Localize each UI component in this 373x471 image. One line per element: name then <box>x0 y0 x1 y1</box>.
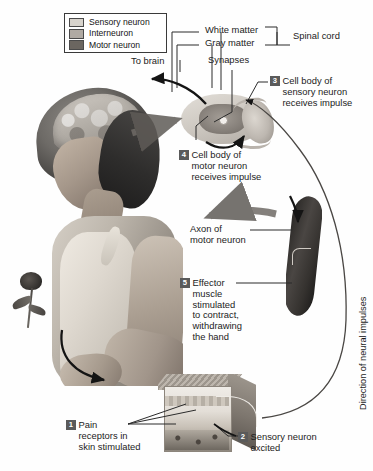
step-5-line-2: muscle <box>193 289 271 300</box>
label-spinal-cord: Spinal cord <box>293 31 340 42</box>
step-2-sensory-neuron-excited: 2Sensory neuron excited <box>238 432 348 454</box>
label-white-matter: White matter <box>205 25 258 36</box>
label-synapses: Synapses <box>208 55 249 66</box>
legend-label-motor-neuron: Motor neuron <box>89 41 140 50</box>
rose-flower <box>12 272 52 328</box>
label-direction-of-neural-impulses: Direction of neural impulses <box>358 297 368 410</box>
step-2-line-2: excited <box>251 443 349 454</box>
step-5-line-6: the hand <box>193 332 271 343</box>
legend-label-sensory-neuron: Sensory neuron <box>89 18 150 27</box>
step-1-pain-receptors: 1Pain receptors in skin stimulated <box>66 420 166 452</box>
diagram-canvas: Sensory neuron Interneuron Motor neuron … <box>0 0 373 471</box>
label-axon-of-motor-neuron-line2: motor neuron <box>190 235 246 246</box>
central-canal <box>219 116 228 125</box>
step-4-line-2: motor neuron <box>192 161 280 172</box>
step-3-sensory-cell-body: 3Cell body of sensory neuron receives im… <box>270 76 370 108</box>
label-gray-matter: Gray matter <box>205 38 255 49</box>
step-1-badge: 1 <box>66 420 76 430</box>
step-4-badge: 4 <box>179 150 189 160</box>
step-3-line-3: receives impulse <box>283 98 371 109</box>
neuron-type-legend: Sensory neuron Interneuron Motor neuron <box>64 13 167 53</box>
step-4-motor-cell-body: 4Cell body of motor neuron receives impu… <box>179 150 279 182</box>
effector-muscle <box>286 196 322 320</box>
legend-swatch-interneuron <box>69 29 84 39</box>
step-1-line-2: receptors in <box>79 431 167 442</box>
label-to-brain: To brain <box>131 56 164 67</box>
legend-item-motor-neuron: Motor neuron <box>69 40 162 51</box>
neuromuscular-junction <box>292 248 311 265</box>
woman-with-exposed-brain-photo <box>8 86 183 386</box>
step-3-badge: 3 <box>270 76 280 86</box>
legend-label-interneuron: Interneuron <box>89 29 133 38</box>
step-4-line-3: receives impulse <box>192 172 280 183</box>
step-1-line-3: skin stimulated <box>79 442 167 453</box>
label-axon-of-motor-neuron-line1: Axon of <box>190 224 222 235</box>
legend-swatch-motor-neuron <box>69 40 84 50</box>
legend-item-interneuron: Interneuron <box>69 28 162 39</box>
legend-item-sensory-neuron: Sensory neuron <box>69 17 162 28</box>
step-5-badge: 5 <box>180 278 190 288</box>
dermis-layer <box>165 430 229 450</box>
step-5-effector-muscle: 5Effector muscle stimulated to contract,… <box>180 278 270 343</box>
legend-swatch-sensory-neuron <box>69 18 84 28</box>
step-3-line-2: sensory neuron <box>283 87 371 98</box>
step-2-badge: 2 <box>238 432 248 442</box>
